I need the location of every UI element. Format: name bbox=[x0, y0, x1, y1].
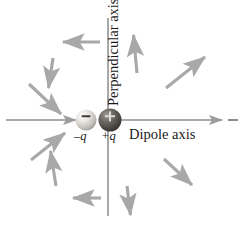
axis-group bbox=[6, 18, 238, 216]
field-arrow-upper-left-down bbox=[49, 58, 54, 88]
field-arrow-lower-right-near bbox=[127, 186, 131, 215]
field-arrow-lower-left-vertical bbox=[51, 151, 57, 186]
dipole-axis-label: Dipole axis bbox=[129, 126, 195, 143]
field-arrow-upper-right-diagonal bbox=[166, 57, 205, 88]
electric-dipole-figure: Dipole axis Perpendicular axis –q +q bbox=[0, 0, 241, 230]
negative-sign-icon bbox=[82, 115, 91, 117]
field-arrow-upper-right-vertical bbox=[134, 35, 138, 73]
perpendicular-axis-label: Perpendicular axis bbox=[105, 0, 122, 106]
field-arrow-upper-left-diagonal-inner bbox=[29, 84, 61, 114]
field-arrow-lower-right-diagonal bbox=[164, 159, 192, 185]
negative-charge-sphere bbox=[76, 110, 97, 131]
positive-charge-label: +q bbox=[101, 129, 116, 144]
negative-charge-label: –q bbox=[74, 129, 87, 144]
field-arrow-lower-left-diagonal-outer bbox=[31, 133, 65, 160]
